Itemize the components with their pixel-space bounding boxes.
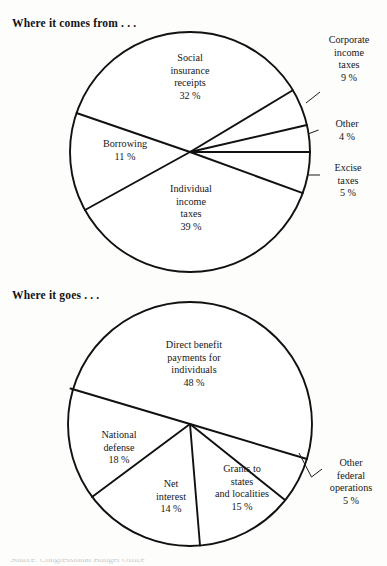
figure-page: Where it comes from . . . Social xyxy=(0,0,387,566)
leader-line-corporate xyxy=(306,92,320,103)
slice-label-direct-benefit-payments: Direct benefit payments for individuals … xyxy=(136,339,252,389)
slice-label-individual-income-taxes: Individual income taxes 39 % xyxy=(136,183,246,233)
panel-receipts: Where it comes from . . . Social xyxy=(0,0,387,285)
slice-label-social-insurance-receipts: Social insurance receipts 32 % xyxy=(134,52,246,102)
slice-label-other: Other 4 % xyxy=(318,118,376,143)
slice-label-borrowing: Borrowing 11 % xyxy=(85,138,165,163)
slice-label-net-interest: Net interest 14 % xyxy=(140,478,202,516)
pie-chart-outlays xyxy=(0,277,387,562)
slice-label-grants-to-states: Grants to states and localities 15 % xyxy=(198,463,286,513)
leader-line-other xyxy=(308,130,319,134)
panel-outlays: Where it goes . . . Direct benefit payme… xyxy=(0,277,387,562)
slice-label-excise-taxes: Excise taxes 5 % xyxy=(319,162,377,200)
footer-clipped-text: Source: Congressional Budget Office xyxy=(10,559,380,566)
slice-label-corporate-income-taxes: Corporate income taxes 9 % xyxy=(316,34,382,84)
slice-label-other-federal-operations: Other federal operations 5 % xyxy=(318,457,384,507)
slice-label-national-defense: National defense 18 % xyxy=(81,429,157,467)
